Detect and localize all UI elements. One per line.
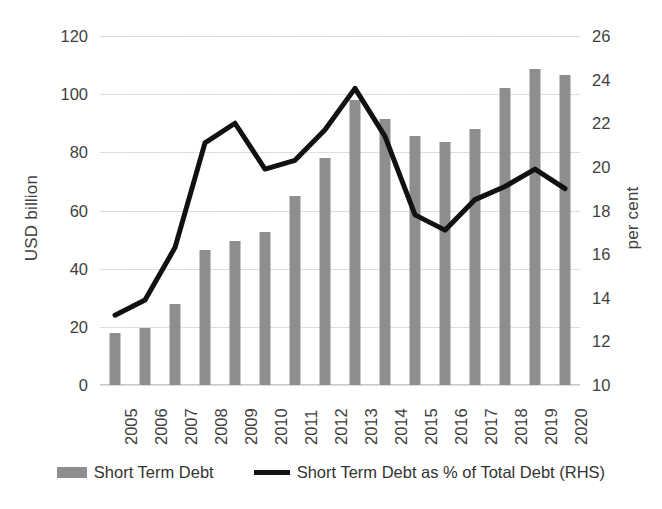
- x-axis-tick-label: 2007: [182, 389, 201, 445]
- y-axis-right-ticks: 101214161820222426: [592, 36, 642, 385]
- y-axis-right-tick-label: 24: [592, 70, 610, 89]
- legend-label-bar: Short Term Debt: [94, 463, 214, 482]
- y-axis-left-ticks: 020406080100120: [30, 36, 88, 385]
- x-axis-tick-label: 2009: [242, 389, 261, 445]
- plot-area: [100, 36, 580, 385]
- y-axis-left-tick-label: 40: [70, 259, 88, 278]
- legend-line-swatch-icon: [254, 470, 290, 475]
- x-axis-tick-label: 2016: [452, 389, 471, 445]
- legend-label-line: Short Term Debt as % of Total Debt (RHS): [297, 463, 605, 482]
- x-axis-tick-label: 2006: [152, 389, 171, 445]
- y-axis-right-tick-label: 20: [592, 157, 610, 176]
- y-axis-left-tick-label: 0: [79, 376, 88, 395]
- x-axis-tick-label: 2018: [512, 389, 531, 445]
- y-axis-left-tick-label: 20: [70, 317, 88, 336]
- y-axis-right-tick-label: 14: [592, 288, 610, 307]
- y-axis-right-tick-label: 16: [592, 245, 610, 264]
- line-series: [100, 36, 580, 385]
- x-axis-tick-label: 2012: [332, 389, 351, 445]
- y-axis-right-tick-label: 26: [592, 27, 610, 46]
- y-axis-right-tick-label: 22: [592, 114, 610, 133]
- y-axis-right-tick-label: 18: [592, 201, 610, 220]
- y-axis-left-tick-label: 80: [70, 143, 88, 162]
- x-axis-tick-label: 2010: [272, 389, 291, 445]
- x-axis-tick-label: 2008: [212, 389, 231, 445]
- x-axis-tick-label: 2019: [542, 389, 561, 445]
- chart-container: USD billion per cent 020406080100120 101…: [0, 0, 662, 509]
- chart-legend: Short Term Debt Short Term Debt as % of …: [0, 463, 662, 482]
- x-axis-tick-label: 2020: [572, 389, 591, 445]
- y-axis-left-tick-label: 120: [60, 27, 88, 46]
- x-axis-labels: 2005200620072008200920102011201220132014…: [100, 389, 580, 451]
- x-axis-tick-label: 2005: [122, 389, 141, 445]
- line-path: [115, 88, 565, 315]
- y-axis-right-tick-label: 10: [592, 376, 610, 395]
- x-axis-tick-label: 2014: [392, 389, 411, 445]
- x-axis-tick-label: 2017: [482, 389, 501, 445]
- x-axis-tick-label: 2015: [422, 389, 441, 445]
- legend-item-bar: Short Term Debt: [57, 463, 214, 482]
- legend-bar-swatch-icon: [57, 467, 87, 478]
- y-axis-left-tick-label: 100: [60, 85, 88, 104]
- x-axis-tick-label: 2011: [302, 389, 321, 445]
- y-axis-right-tick-label: 12: [592, 332, 610, 351]
- x-axis-tick-label: 2013: [362, 389, 381, 445]
- gridline: [100, 385, 580, 386]
- y-axis-left-tick-label: 60: [70, 201, 88, 220]
- legend-item-line: Short Term Debt as % of Total Debt (RHS): [254, 463, 605, 482]
